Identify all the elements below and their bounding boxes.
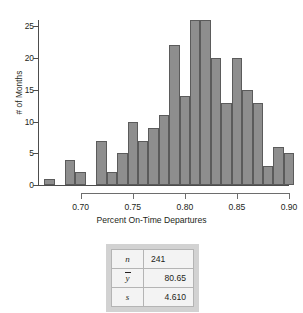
- histogram-figure: # of Months 0510152025 0.700.750.800.850…: [0, 0, 303, 313]
- y-axis-tick-mark: [33, 58, 38, 59]
- stats-row: y80.65: [112, 269, 193, 288]
- histogram-bar: [253, 103, 263, 186]
- x-axis-tick-mark: [237, 193, 238, 199]
- stats-symbol: y: [112, 269, 144, 287]
- x-axis-tick-label: 0.85: [229, 202, 246, 212]
- x-axis-tick-label: 0.80: [176, 202, 193, 212]
- histogram-bar: [169, 45, 179, 185]
- x-axis-tick-mark: [289, 193, 290, 199]
- stats-row: n241: [112, 250, 193, 269]
- y-axis-tick-mark: [33, 26, 38, 27]
- histogram-bar: [128, 122, 138, 185]
- y-axis-tick-mark: [33, 122, 38, 123]
- stats-symbol: n: [112, 250, 144, 268]
- x-axis-tick-label: 0.90: [281, 202, 298, 212]
- histogram-bar: [159, 115, 169, 185]
- histogram-bar: [232, 58, 242, 185]
- x-axis-ruler: [39, 193, 289, 200]
- histogram-bar: [273, 147, 283, 185]
- histogram-bar: [138, 141, 148, 185]
- x-axis-tick-mark: [133, 193, 134, 199]
- y-axis-tick-mark: [33, 90, 38, 91]
- histogram-bar: [65, 160, 75, 185]
- x-axis-title: Percent On-Time Departures: [0, 215, 303, 225]
- histogram-bar: [107, 172, 117, 185]
- histogram-bar: [190, 20, 200, 185]
- x-axis-tick-label: 0.70: [72, 202, 89, 212]
- y-axis-tick-mark: [33, 185, 38, 186]
- histogram-bar: [200, 20, 210, 185]
- x-axis-tick-labels: 0.700.750.800.850.90: [0, 202, 303, 216]
- y-axis-tick-mark: [33, 153, 38, 154]
- x-axis-tick-mark: [81, 193, 82, 199]
- histogram-bar: [242, 90, 252, 185]
- summary-statistics-table: n241y80.65s4.610: [106, 244, 199, 312]
- histogram-bar: [75, 172, 85, 185]
- stats-value: 4.610: [144, 292, 193, 302]
- x-axis-tick-label: 0.75: [124, 202, 141, 212]
- stats-symbol: s: [112, 288, 144, 306]
- histogram-bar: [211, 58, 221, 185]
- plot-area: # of Months 0510152025 0.700.750.800.850…: [0, 0, 303, 232]
- histogram-bar: [284, 153, 294, 185]
- histogram-bar: [180, 96, 190, 185]
- summary-statistics-grid: n241y80.65s4.610: [111, 249, 194, 307]
- stats-value: 241: [144, 254, 193, 264]
- histogram-bars: [39, 20, 289, 185]
- histogram-bar: [117, 153, 127, 185]
- histogram-bar: [148, 128, 158, 185]
- stats-row: s4.610: [112, 288, 193, 306]
- x-axis-baseline: [38, 185, 289, 186]
- histogram-bar: [263, 166, 273, 185]
- y-axis-tick-labels: 0510152025: [8, 0, 34, 200]
- stats-value: 80.65: [144, 273, 193, 283]
- histogram-bar: [96, 141, 106, 185]
- x-axis-tick-mark: [185, 193, 186, 199]
- histogram-bar: [221, 103, 231, 186]
